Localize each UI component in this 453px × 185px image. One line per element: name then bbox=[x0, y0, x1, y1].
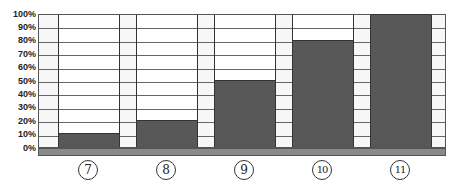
x-label-11: 11 bbox=[390, 160, 410, 180]
column-gridline bbox=[215, 28, 275, 29]
x-label-8: 8 bbox=[156, 160, 176, 180]
baseline-slab bbox=[38, 148, 446, 156]
bar-column-8 bbox=[136, 15, 198, 147]
column-gridline bbox=[59, 42, 119, 43]
column-gridline bbox=[59, 95, 119, 96]
bar-column-11 bbox=[370, 15, 432, 147]
column-gridline bbox=[215, 55, 275, 56]
bar-column-7 bbox=[58, 15, 120, 147]
column-gridline bbox=[137, 82, 197, 83]
column-gridline bbox=[293, 28, 353, 29]
y-tick-40: 40% bbox=[0, 89, 36, 99]
column-gridline bbox=[137, 55, 197, 56]
y-tick-100: 100% bbox=[0, 9, 36, 19]
y-tick-60: 60% bbox=[0, 62, 36, 72]
y-tick-80: 80% bbox=[0, 35, 36, 45]
column-gridline bbox=[137, 95, 197, 96]
bar-8 bbox=[137, 120, 197, 147]
column-gridline bbox=[59, 69, 119, 70]
column-gridline bbox=[59, 28, 119, 29]
plot-area bbox=[38, 14, 446, 148]
x-label-9: 9 bbox=[234, 160, 254, 180]
column-gridline bbox=[59, 82, 119, 83]
y-tick-50: 50% bbox=[0, 76, 36, 86]
y-tick-0: 0% bbox=[0, 143, 36, 153]
y-tick-70: 70% bbox=[0, 49, 36, 59]
column-gridline bbox=[137, 42, 197, 43]
bar-11 bbox=[371, 14, 431, 147]
column-gridline bbox=[137, 69, 197, 70]
bar-10 bbox=[293, 40, 353, 147]
column-gridline bbox=[215, 42, 275, 43]
column-gridline bbox=[215, 69, 275, 70]
bar-9 bbox=[215, 80, 275, 147]
y-tick-30: 30% bbox=[0, 102, 36, 112]
bar-column-10 bbox=[292, 15, 354, 147]
y-tick-20: 20% bbox=[0, 116, 36, 126]
x-label-10: 10 bbox=[312, 160, 332, 180]
column-gridline bbox=[137, 28, 197, 29]
column-gridline bbox=[59, 122, 119, 123]
bar-column-9 bbox=[214, 15, 276, 147]
column-gridline bbox=[137, 109, 197, 110]
x-label-7: 7 bbox=[78, 160, 98, 180]
bar-7 bbox=[59, 133, 119, 147]
y-tick-90: 90% bbox=[0, 22, 36, 32]
y-tick-10: 10% bbox=[0, 129, 36, 139]
column-gridline bbox=[59, 55, 119, 56]
column-gridline bbox=[59, 109, 119, 110]
